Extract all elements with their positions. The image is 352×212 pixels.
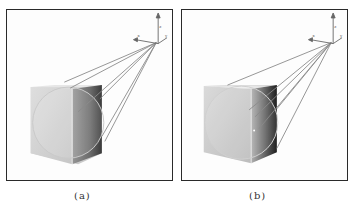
- caption-a: (a): [74, 190, 91, 201]
- svg-text:x: x: [137, 33, 140, 38]
- sphere-outline: [205, 86, 278, 159]
- svg-text:x: x: [312, 33, 315, 38]
- cube-ray-diagram-b: z x y: [182, 10, 347, 180]
- svg-text:y: y: [339, 33, 343, 38]
- cube-ray-diagram-a: z x y: [7, 10, 172, 180]
- figure-panel-b: z x y: [181, 9, 348, 181]
- caption-b: (b): [249, 190, 266, 201]
- svg-text:z: z: [334, 24, 336, 29]
- sphere-outline: [33, 87, 104, 158]
- hit-point: [253, 130, 255, 132]
- coordinate-axes-icon: z x y: [308, 13, 343, 44]
- figure-panel-a: z x y: [6, 9, 173, 181]
- svg-text:y: y: [164, 33, 168, 38]
- coordinate-axes-icon: z x y: [133, 13, 168, 44]
- svg-text:z: z: [159, 24, 161, 29]
